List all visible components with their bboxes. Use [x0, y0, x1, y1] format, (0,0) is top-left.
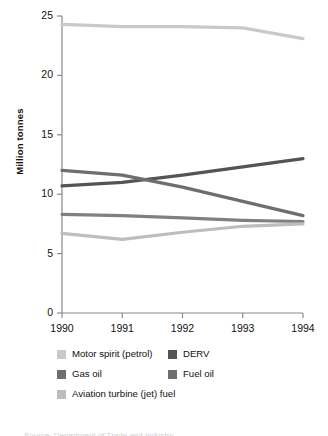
legend-swatch-gas-oil	[57, 370, 66, 379]
figure: Million tonnes 0510152025 19901991199219…	[0, 0, 328, 436]
y-axis-tick-label: 10	[23, 187, 53, 199]
series-line-gas-oil	[62, 170, 303, 215]
x-axis-tick-label: 1991	[100, 322, 144, 334]
legend-item-fuel-oil: Fuel oil	[168, 369, 214, 379]
y-axis-tick-label: 15	[23, 128, 53, 140]
y-axis-tick-label: 5	[23, 247, 53, 259]
y-axis-ticks	[57, 16, 62, 313]
line-chart-svg	[0, 0, 328, 340]
source-note: Source: Department of Trade and Industry	[24, 425, 254, 436]
legend-label-motor-spirit: Motor spirit (petrol)	[72, 349, 153, 359]
legend-swatch-derv	[168, 350, 177, 359]
y-axis-tick-label: 25	[23, 9, 53, 21]
series-line-motor-spirit-petrol	[62, 24, 303, 38]
x-axis-tick-label: 1994	[281, 322, 325, 334]
legend-item-gas-oil: Gas oil	[57, 369, 102, 379]
legend-label-gas-oil: Gas oil	[72, 369, 102, 379]
legend-label-derv: DERV	[183, 349, 209, 359]
legend-item-aviation-turbine-fuel: Aviation turbine (jet) fuel	[57, 389, 175, 399]
y-axis-title: Million tonnes	[14, 97, 25, 187]
series-lines	[62, 24, 303, 239]
series-line-fuel-oil	[62, 214, 303, 221]
legend-label-fuel-oil: Fuel oil	[183, 369, 214, 379]
legend-item-derv: DERV	[168, 349, 209, 359]
legend-item-motor-spirit: Motor spirit (petrol)	[57, 349, 153, 359]
x-axis-tick-label: 1990	[40, 322, 84, 334]
series-line-aviation-turbine-jet-fuel	[62, 224, 303, 239]
legend-swatch-aviation-turbine-fuel	[57, 390, 66, 399]
x-axis-ticks	[62, 313, 303, 318]
x-axis-tick-label: 1992	[161, 322, 205, 334]
legend-label-aviation-turbine-fuel: Aviation turbine (jet) fuel	[72, 389, 175, 399]
chart-plot-area: Million tonnes 0510152025 19901991199219…	[0, 0, 328, 340]
x-axis-tick-label: 1993	[221, 322, 265, 334]
legend-swatch-fuel-oil	[168, 370, 177, 379]
legend-swatch-motor-spirit	[57, 350, 66, 359]
y-axis-tick-label: 0	[23, 306, 53, 318]
chart-legend: Motor spirit (petrol) DERV Gas oil Fuel …	[0, 344, 328, 414]
y-axis-tick-label: 20	[23, 68, 53, 80]
